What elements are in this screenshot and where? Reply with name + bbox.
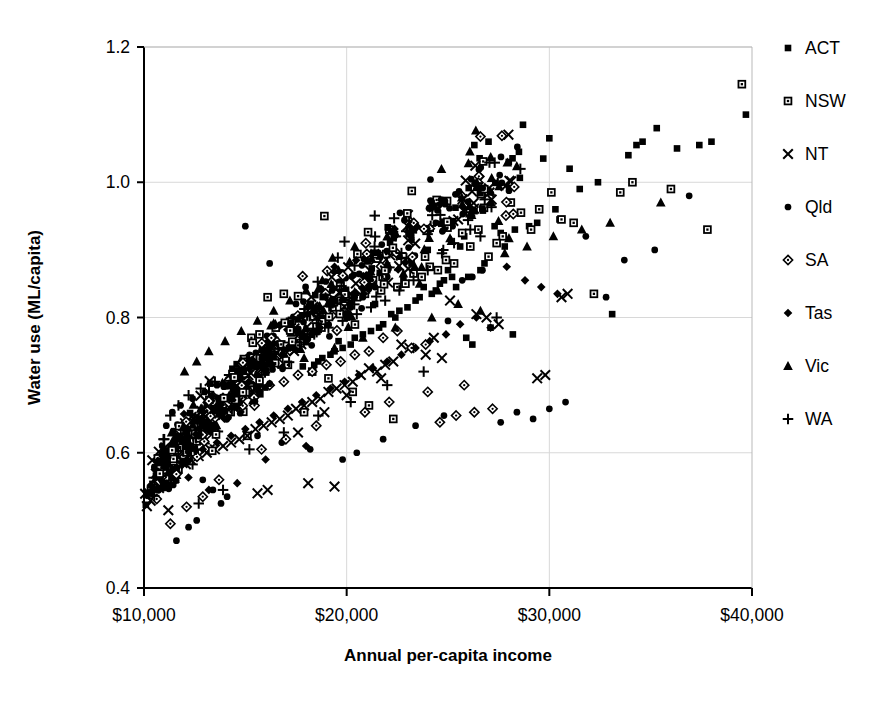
point-cluster xyxy=(361,239,370,248)
point-SA xyxy=(312,421,321,430)
point-NSW xyxy=(459,230,466,237)
point-Tas xyxy=(502,262,511,271)
y-tick-label: 1.2 xyxy=(106,37,130,57)
point-NT xyxy=(421,350,431,360)
point-NT xyxy=(164,505,174,515)
point-Qld xyxy=(199,476,206,483)
y-tick-label: 0.6 xyxy=(106,443,130,463)
point-Tas xyxy=(261,455,270,464)
point-cluster xyxy=(329,299,336,306)
point-NSW xyxy=(499,233,506,240)
data-points-layer xyxy=(140,81,749,544)
point-ACT xyxy=(520,121,527,128)
point-SA xyxy=(379,333,388,342)
point-NSW xyxy=(629,179,636,186)
point-cluster xyxy=(389,244,396,251)
x-tick-label: $30,000 xyxy=(518,605,582,625)
legend-item-ACT[interactable]: ACT xyxy=(785,38,841,58)
point-Qld xyxy=(546,405,553,412)
point-Qld xyxy=(445,318,452,325)
point-cluster xyxy=(279,365,286,372)
x-tick-label: $20,000 xyxy=(315,605,379,625)
point-cluster xyxy=(312,292,319,299)
point-cluster xyxy=(156,470,163,477)
point-ACT xyxy=(335,338,342,345)
point-cluster xyxy=(240,389,247,396)
legend-item-Qld[interactable]: Qld xyxy=(785,197,833,217)
legend-marker-ACT xyxy=(785,45,792,52)
point-cluster xyxy=(231,374,238,381)
point-ACT xyxy=(510,331,517,338)
point-Vic xyxy=(549,231,559,240)
point-cluster xyxy=(427,176,434,183)
point-Vic xyxy=(299,353,309,362)
point-ACT xyxy=(540,155,547,162)
point-cluster xyxy=(438,196,445,203)
point-cluster xyxy=(177,434,184,441)
point-NSW xyxy=(390,416,397,423)
point-cluster xyxy=(322,293,329,300)
point-ACT xyxy=(412,297,419,304)
point-SA xyxy=(166,519,175,528)
point-Qld xyxy=(582,233,589,240)
point-NT xyxy=(445,296,455,306)
point-cluster xyxy=(498,179,505,186)
point-cluster xyxy=(456,188,463,195)
legend-item-WA[interactable]: WA xyxy=(783,409,833,429)
point-cluster xyxy=(401,217,408,224)
point-cluster xyxy=(381,281,388,288)
point-NSW xyxy=(738,81,745,88)
point-SA xyxy=(385,397,394,406)
point-NT xyxy=(303,478,313,488)
point-ACT xyxy=(457,243,464,250)
point-cluster xyxy=(226,382,233,389)
legend-label-NT: NT xyxy=(805,144,829,164)
point-SA xyxy=(322,360,331,369)
point-ACT xyxy=(376,324,383,331)
point-ACT xyxy=(396,307,403,314)
scatter-chart: 0.40.60.81.01.2$10,000$20,000$30,000$40,… xyxy=(0,0,874,705)
point-ACT xyxy=(351,334,358,341)
point-cluster xyxy=(295,325,302,332)
point-Qld xyxy=(353,449,360,456)
point-cluster xyxy=(422,253,429,260)
point-cluster xyxy=(498,154,505,161)
legend-item-Vic[interactable]: Vic xyxy=(783,356,829,376)
point-NSW xyxy=(485,253,492,260)
point-ACT xyxy=(653,125,660,132)
point-Qld xyxy=(412,422,419,429)
point-cluster xyxy=(222,408,229,415)
point-cluster xyxy=(295,293,302,300)
legend-item-NSW[interactable]: NSW xyxy=(785,91,847,111)
point-Qld xyxy=(479,267,486,274)
point-cluster xyxy=(417,262,427,271)
legend-label-SA: SA xyxy=(805,250,829,270)
point-cluster xyxy=(213,431,220,438)
legend-item-Tas[interactable]: Tas xyxy=(784,303,833,323)
legend-item-NT[interactable]: NT xyxy=(783,144,828,164)
legend-label-Qld: Qld xyxy=(805,197,832,217)
y-tick-label: 0.8 xyxy=(106,308,130,328)
point-cluster xyxy=(189,400,199,409)
legend-marker-SA xyxy=(783,255,792,264)
point-SA xyxy=(452,411,461,420)
point-Qld xyxy=(459,277,466,284)
point-SA xyxy=(435,418,444,427)
point-Qld xyxy=(185,524,192,531)
point-Tas xyxy=(521,276,530,285)
point-cluster xyxy=(325,321,332,328)
point-ACT xyxy=(512,226,519,233)
point-cluster xyxy=(184,473,193,482)
point-ACT xyxy=(595,179,602,186)
point-ACT xyxy=(625,152,632,159)
point-Qld xyxy=(530,416,537,423)
point-NSW xyxy=(704,226,711,233)
point-cluster xyxy=(404,210,411,217)
point-Tas xyxy=(456,320,465,329)
chart-legend[interactable]: ACTNSWNTQldSATasVicWA xyxy=(783,38,847,429)
point-Qld xyxy=(173,537,180,544)
point-cluster xyxy=(326,314,333,321)
point-NSW xyxy=(256,331,263,338)
legend-item-SA[interactable]: SA xyxy=(783,250,828,270)
point-NSW xyxy=(280,290,287,297)
